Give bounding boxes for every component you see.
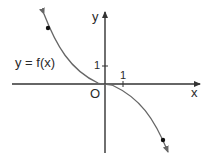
function-label: y = f(x) xyxy=(15,56,55,69)
marked-point-left xyxy=(46,26,50,30)
function-curve xyxy=(44,14,168,152)
origin-label: O xyxy=(90,87,100,100)
graph-canvas xyxy=(0,0,210,167)
y-axis-label: y xyxy=(92,10,99,23)
x-tick-label: 1 xyxy=(120,70,126,81)
marked-point-right xyxy=(161,138,165,142)
x-axis-label: x xyxy=(191,86,198,99)
y-tick-label: 1 xyxy=(94,60,100,71)
